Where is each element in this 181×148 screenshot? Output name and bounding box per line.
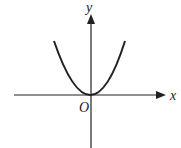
y-axis-label: y	[86, 1, 92, 15]
origin-label: O	[79, 101, 89, 115]
x-axis-label: x	[170, 89, 176, 103]
parabola-curve	[54, 41, 125, 95]
y-axis-arrow-icon	[87, 14, 95, 24]
x-axis-arrow-icon	[156, 91, 166, 99]
graph	[0, 0, 181, 148]
